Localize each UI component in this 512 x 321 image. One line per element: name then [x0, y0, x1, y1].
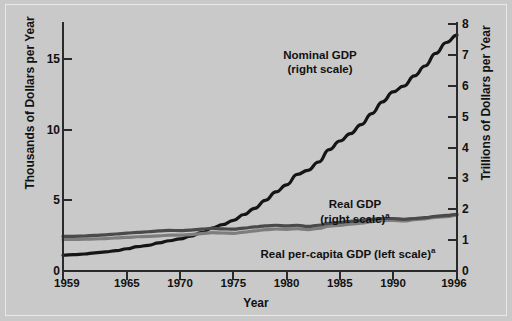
annotation-real-gdp: Real GDP (right scale)a — [320, 197, 390, 227]
annotation-real-per-capita-gdp-text: Real per-capita GDP (left scale) — [261, 248, 431, 260]
y-axis-right-title: Trillions of Dollars per Year — [479, 3, 493, 203]
y-axis-right-tick-label: 2 — [462, 203, 469, 215]
y-axis-left-tick — [64, 129, 72, 131]
y-axis-right-tick — [448, 239, 456, 241]
y-axis-right-line — [456, 22, 458, 272]
x-axis-tick-label: 1990 — [380, 278, 406, 290]
y-axis-right-tick — [448, 23, 456, 25]
x-axis-tick-label: 1985 — [327, 278, 353, 290]
annotation-real-gdp-line1: Real GDP — [320, 197, 390, 211]
y-axis-left-tick-label: 5 — [53, 194, 60, 206]
annotation-real-per-capita-gdp-footnote-marker: a — [431, 246, 435, 255]
y-axis-right-tick — [448, 270, 456, 272]
y-axis-right-tick — [448, 208, 456, 210]
x-axis-tick-label: 1965 — [114, 278, 140, 290]
x-axis-title: Year — [0, 296, 512, 310]
annotation-real-gdp-line2-text: (right scale) — [320, 213, 385, 225]
x-axis-tick-label: 1959 — [54, 278, 80, 290]
annotation-real-gdp-footnote-marker: a — [385, 211, 389, 220]
x-axis-line — [62, 270, 458, 272]
y-axis-left-tick — [64, 58, 72, 60]
y-axis-left-tick-label: 10 — [47, 124, 60, 136]
y-axis-right-tick-label: 7 — [462, 49, 469, 61]
chart-series-layer — [0, 0, 512, 321]
y-axis-right-tick — [448, 116, 456, 118]
annotation-nominal-gdp-line1: Nominal GDP — [283, 48, 356, 62]
y-axis-right-tick-label: 3 — [462, 172, 469, 184]
annotation-real-per-capita-gdp-line1: Real per-capita GDP (left scale)a — [261, 246, 436, 261]
y-axis-left-tick — [64, 199, 72, 201]
annotation-nominal-gdp-line2: (right scale) — [283, 62, 356, 76]
y-axis-right-tick — [448, 54, 456, 56]
y-axis-right-tick-label: 1 — [462, 234, 469, 246]
y-axis-left-tick-label: 0 — [53, 265, 60, 277]
annotation-nominal-gdp: Nominal GDP (right scale) — [283, 48, 356, 77]
y-axis-left-tick — [64, 270, 72, 272]
x-axis-tick-label: 1975 — [221, 278, 247, 290]
y-axis-right-tick-label: 0 — [462, 265, 469, 277]
x-axis-tick-label: 1996 — [441, 278, 467, 290]
y-axis-right-tick-label: 5 — [462, 111, 469, 123]
x-axis-tick-label: 1980 — [274, 278, 300, 290]
y-axis-left-title: Thousands of Dollars per Year — [23, 3, 37, 203]
y-axis-right-tick — [448, 177, 456, 179]
y-axis-right-tick-label: 8 — [462, 18, 469, 30]
annotation-real-gdp-line2: (right scale)a — [320, 211, 390, 226]
y-axis-right-tick-label: 4 — [462, 142, 469, 154]
y-axis-right-tick-label: 6 — [462, 80, 469, 92]
y-axis-right-tick — [448, 147, 456, 149]
series-line-nominal-gdp — [63, 35, 457, 255]
y-axis-left-tick-label: 15 — [47, 53, 60, 65]
series-line-real-per-capita-gdp — [63, 214, 457, 236]
y-axis-right-tick — [448, 85, 456, 87]
x-axis-tick-label: 1970 — [167, 278, 193, 290]
chart-figure: 0510150123456781959196519701975198019851… — [0, 0, 512, 321]
annotation-real-per-capita-gdp: Real per-capita GDP (left scale)a — [261, 246, 436, 261]
